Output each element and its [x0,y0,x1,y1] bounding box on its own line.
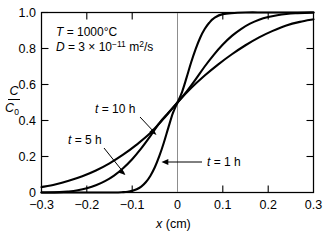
y-tick-label-2: 0.8 [19,42,36,56]
curve-label-t-1h: t = 1 h [207,155,241,169]
x-axis-title: x (cm) [155,217,191,231]
x-tick-label-4: 0 [174,198,181,212]
y-tick-label-5: 0.2 [19,150,36,164]
y-axis-title-denominator: C0 [5,101,19,117]
curve-label-t-10h-leader [140,117,157,135]
y-axis-ticks-left [42,13,49,193]
y-axis-title: C C0 [5,84,20,117]
y-tick-label-1: 1.0 [19,6,36,20]
x-tick-label-7: 0.3 [305,198,322,212]
x-tick-label-2: −0.2 [74,198,99,212]
y-axis-ticks-right [307,49,314,157]
diffusion-concentration-profile-chart: 1.0 0.8 0.6 0.4 0.2 0 −0.3 −0.2 −0.1 0 0… [0,0,335,234]
x-tick-label-5: 0.1 [214,198,231,212]
y-tick-label-4: 0.4 [19,114,36,128]
annotation-temperature: T = 1000°C [56,25,118,39]
annotation-diffusivity: D = 3 × 10−11 m2/s [56,39,153,54]
curve-label-t-5h-leader [104,148,126,175]
y-axis-title-numerator: C [9,84,19,98]
x-tick-label-3: −0.1 [120,198,145,212]
x-tick-label-1: −0.3 [29,198,54,212]
curve-label-t-5h: t = 5 h [68,133,102,147]
curve-label-t-10h: t = 10 h [95,102,135,116]
svg-text:x (cm): x (cm) [155,217,191,231]
x-tick-label-6: 0.2 [260,198,277,212]
curve-label-t-1h-leader [162,159,203,165]
y-tick-label-3: 0.6 [19,78,36,92]
